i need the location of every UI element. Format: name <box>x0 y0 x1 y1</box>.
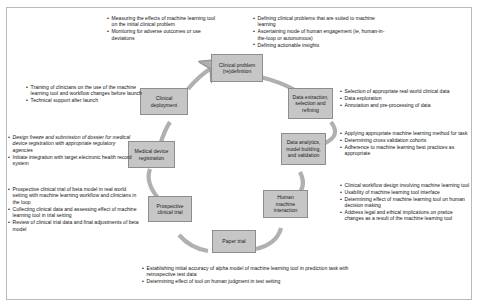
node-label: Clinical problem (re)definition <box>215 62 259 75</box>
annotation-item: Annotation and pre-processing of data <box>340 102 468 108</box>
arrow-human-to-paper <box>256 228 281 249</box>
node-human-machine-interaction[interactable]: Human machine interaction <box>263 190 308 218</box>
node-data-analytics-model-building-validation[interactable]: Data analytics, model building, and vali… <box>281 133 326 165</box>
node-label: Clinical deployment <box>144 95 184 108</box>
node-clinical-deployment[interactable]: Clinical deployment <box>140 88 188 115</box>
arrow-prospective-to-registration <box>149 169 158 198</box>
arrow-deployment-to-problem <box>188 67 213 89</box>
annotation-item: Selection of appropriate real world clin… <box>340 88 468 94</box>
node-paper-trial[interactable]: Paper trial <box>212 230 256 253</box>
node-data-extraction-selection-refining[interactable]: Data extraction, selection and refining <box>288 88 333 119</box>
arrow-data-to-analytics <box>325 122 335 143</box>
annotation-item: Defining actionable insights <box>253 42 393 48</box>
annotation-item: Address legal and ethical implications o… <box>340 209 472 222</box>
annotation-item: Determining effect of machine learning t… <box>340 196 472 209</box>
node-label: Data extraction, selection and refining <box>292 94 329 113</box>
annotation-item: Ascertaining mode of human engagement (i… <box>253 28 393 41</box>
node-label: Data analytics, model building, and vali… <box>285 139 322 158</box>
node-clinical-problem-redefinition[interactable]: Clinical problem (re)definition <box>211 54 263 82</box>
annotation-clinical-problem: Defining clinical problems that are suit… <box>253 15 393 48</box>
node-label: Prospective clinical trial <box>152 203 188 216</box>
annotation-data-extraction: Selection of appropriate real world clin… <box>340 88 468 109</box>
figure-canvas: Clinical problem (re)definition Data ext… <box>0 0 478 307</box>
node-label: Medical device registration <box>132 148 171 161</box>
annotation-item: Initiate integration with target electro… <box>8 154 132 167</box>
annotation-human-machine: Clinical workflow design involving machi… <box>340 182 472 222</box>
annotation-clinical-deployment: Measuring the effects of machine learnin… <box>107 15 219 42</box>
annotation-item: Monitoring for adverse outcomes or use d… <box>107 28 219 41</box>
annotation-item: Technical support after launch <box>26 97 142 103</box>
annotation-item: Determining effect of tool on human judg… <box>142 278 357 284</box>
annotation-paper-trial: Establishing initial accuracy of alpha m… <box>142 265 357 285</box>
annotation-item: Usability of machine learning tool inter… <box>340 189 472 195</box>
annotation-training: Training of clinicians on the use of the… <box>26 84 142 104</box>
annotation-item: Applying appropriate machine learning me… <box>340 130 468 136</box>
annotation-prospective-trial: Prospective clinical trial of beta model… <box>8 186 142 232</box>
annotation-item: Measuring the effects of machine learnin… <box>107 15 219 28</box>
annotation-item: Adherence to machine learning best pract… <box>340 144 468 157</box>
annotation-item: Design freeze and submission of dossier … <box>8 134 132 153</box>
node-prospective-clinical-trial[interactable]: Prospective clinical trial <box>148 196 192 222</box>
annotation-data-analytics: Applying appropriate machine learning me… <box>340 130 468 157</box>
node-label: Human machine interaction <box>267 194 304 213</box>
annotation-item: Determining cross validation cohorts <box>340 137 468 143</box>
annotation-item: Training of clinicians on the use of the… <box>26 84 142 97</box>
node-label: Paper trial <box>222 238 245 244</box>
annotation-item: Defining clinical problems that are suit… <box>253 15 393 28</box>
annotation-item: Establishing initial accuracy of alpha m… <box>142 265 357 278</box>
annotation-item: Clinical workflow design involving machi… <box>340 182 472 188</box>
annotation-item: Collecting clinical data and assessing e… <box>8 206 142 219</box>
annotation-item: Review of clinical trial data and final … <box>8 219 142 232</box>
annotation-device-registration: Design freeze and submission of dossier … <box>8 134 132 167</box>
annotation-item: Prospective clinical trial of beta model… <box>8 186 142 205</box>
node-medical-device-registration[interactable]: Medical device registration <box>128 141 175 168</box>
arrow-paper-to-prospective <box>179 235 208 251</box>
annotation-item: Data exploration <box>340 95 468 101</box>
